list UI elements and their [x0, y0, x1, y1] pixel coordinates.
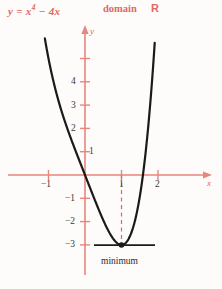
y-tick-label-neg1: −1 [65, 193, 75, 203]
y-tick-label-4: 4 [71, 76, 76, 86]
x-tick-label-2: 2 [155, 179, 160, 189]
x-axis-label: x [207, 178, 211, 188]
graph-figure: y = x4 − 4x domain R [0, 0, 222, 289]
y-tick-label-3: 3 [71, 100, 76, 110]
function-curve [45, 38, 155, 245]
minimum-point-marker [119, 242, 125, 248]
y-tick-label-neg2: −2 [65, 216, 75, 226]
x-tick-label-1: 1 [119, 179, 124, 189]
y-tick-label-1: 1 [89, 146, 94, 156]
y-tick-label-neg3: −3 [65, 239, 75, 249]
x-tick-label-neg1: −1 [41, 179, 51, 189]
y-axis-label: y [90, 26, 94, 36]
y-axis-arrow-icon [81, 25, 88, 34]
plot-area [0, 0, 222, 289]
y-tick-label-2: 2 [71, 123, 76, 133]
minimum-annotation-label: minimum [101, 256, 138, 266]
